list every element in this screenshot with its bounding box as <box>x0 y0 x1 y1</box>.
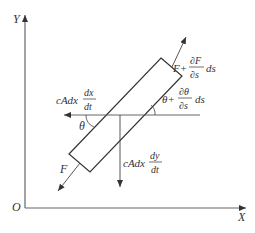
svg-text:ds: ds <box>195 93 205 105</box>
svg-text:dx: dx <box>84 87 94 98</box>
lower-angle-label: θ <box>79 119 85 133</box>
svg-text:dt: dt <box>151 164 159 175</box>
svg-text:dy: dy <box>150 150 160 161</box>
lower-angle-arc <box>86 115 94 127</box>
svg-text:∂F: ∂F <box>190 55 202 66</box>
lower-tension-label: F <box>59 162 68 176</box>
svg-text:θ+: θ+ <box>162 93 175 105</box>
svg-text:∂s: ∂s <box>190 69 199 80</box>
vertical-drag-label: cAdx dy dt <box>123 150 162 175</box>
svg-text:∂s: ∂s <box>179 100 188 111</box>
horizontal-drag-label: cAdx dx dt <box>56 87 96 112</box>
svg-text:ds: ds <box>206 62 216 74</box>
x-axis-label: X <box>237 210 246 224</box>
y-axis-label: Y <box>13 12 21 26</box>
upper-tension-label: F+ ∂F ∂s ds <box>172 55 216 80</box>
svg-text:F+: F+ <box>172 62 187 74</box>
svg-text:cAdx: cAdx <box>123 157 145 169</box>
origin-label: O <box>12 200 21 214</box>
force-diagram: Y O X θ F F+ ∂F ∂s ds θ+ ∂θ ∂s ds cAdx d… <box>0 0 255 233</box>
svg-text:cAdx: cAdx <box>56 94 78 106</box>
svg-text:dt: dt <box>84 101 92 112</box>
svg-text:∂θ: ∂θ <box>179 86 189 97</box>
